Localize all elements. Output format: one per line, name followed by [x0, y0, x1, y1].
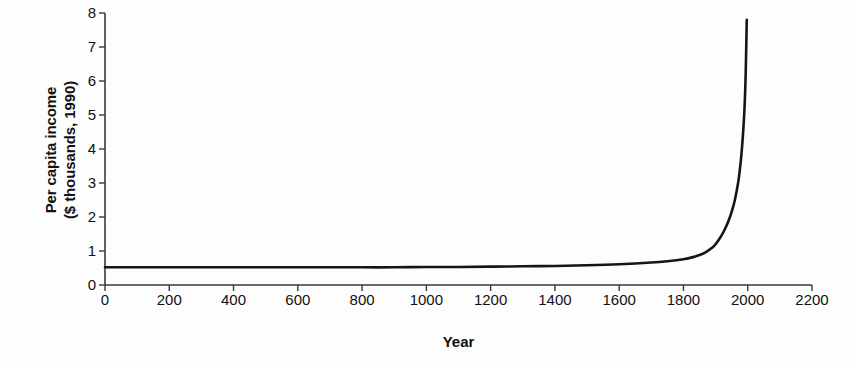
x-tick-label: 600 — [285, 292, 310, 307]
x-tick-label: 1200 — [474, 292, 507, 307]
y-axis-ticks — [99, 13, 105, 285]
x-tick-label: 2200 — [795, 292, 828, 307]
chart-container: Per capita income ($ thousands, 1990) 01… — [0, 0, 850, 365]
x-tick-label: 1000 — [410, 292, 443, 307]
x-axis-tick-labels: 0200400600800100012001400160018002000220… — [0, 292, 850, 316]
x-axis-label: Year — [105, 333, 812, 350]
x-tick-label: 1800 — [667, 292, 700, 307]
x-tick-label: 2000 — [731, 292, 764, 307]
x-axis-ticks — [105, 285, 812, 291]
x-tick-label: 1600 — [602, 292, 635, 307]
x-tick-label: 400 — [221, 292, 246, 307]
data-series-line — [105, 20, 747, 268]
x-tick-label: 200 — [157, 292, 182, 307]
x-tick-label: 1400 — [538, 292, 571, 307]
x-tick-label: 0 — [101, 292, 109, 307]
axes — [105, 13, 812, 285]
x-tick-label: 800 — [350, 292, 375, 307]
